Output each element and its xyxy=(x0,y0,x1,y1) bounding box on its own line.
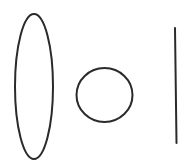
diagram-canvas xyxy=(0,0,190,168)
tall-ellipse-shape xyxy=(15,14,53,159)
vertical-line-shape xyxy=(175,28,177,143)
circle-shape xyxy=(77,68,133,122)
shapes-svg xyxy=(0,0,190,168)
